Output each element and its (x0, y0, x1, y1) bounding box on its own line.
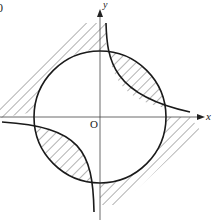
shaded-region-q1 (108, 48, 166, 108)
diagram-figure (0, 0, 215, 222)
x-axis-arrow-icon (197, 114, 205, 120)
y-axis-arrow-icon (97, 9, 103, 17)
